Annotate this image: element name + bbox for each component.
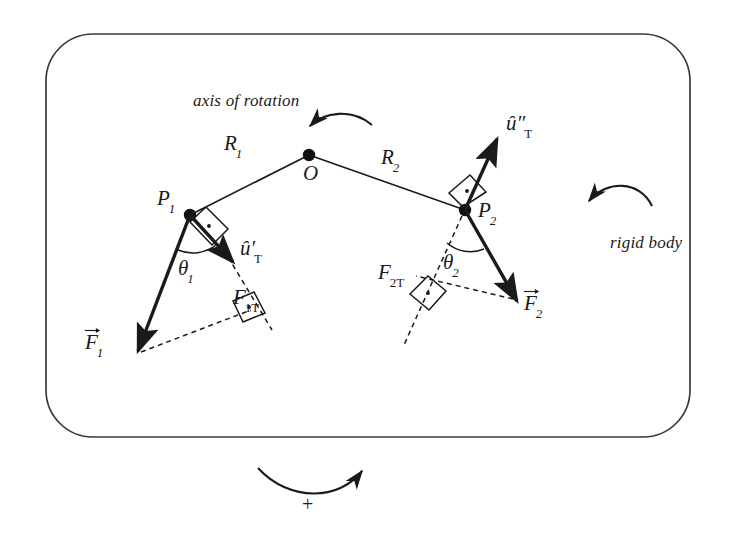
unit-tangent-1-letter: û bbox=[240, 236, 251, 260]
point-p1-label: P1 bbox=[157, 188, 176, 212]
vector-arrow-overbar-f1 bbox=[84, 326, 101, 335]
axis-of-rotation-arrow bbox=[310, 114, 372, 126]
unit-tangent-2-letter: û bbox=[506, 111, 517, 135]
f1t-letter: F bbox=[233, 285, 246, 309]
pivot-point-dot bbox=[303, 149, 315, 161]
pivot-label: O bbox=[303, 163, 318, 184]
point-p1-subscript: 1 bbox=[169, 201, 176, 216]
rigid-body-pointer-arrow bbox=[589, 186, 652, 206]
point-p1-letter: P bbox=[157, 186, 170, 210]
rigid-body-outline bbox=[46, 34, 690, 437]
projection-line-1 bbox=[141, 310, 251, 352]
radius-2-label: R2 bbox=[381, 147, 400, 171]
angle-1-subscript: 1 bbox=[187, 271, 194, 286]
radius-1-subscript: 1 bbox=[236, 146, 243, 161]
rigid-body-label: rigid body bbox=[610, 234, 682, 251]
f1t-subscript: 1T bbox=[245, 300, 259, 315]
angle-2-label: θ2 bbox=[443, 252, 460, 276]
force-2-label: F2 bbox=[524, 293, 543, 317]
angle-1-arc bbox=[178, 245, 216, 253]
force-1-letter-wrap: F bbox=[85, 332, 98, 353]
f2t-letter: F bbox=[378, 260, 391, 284]
angle-2-subscript: 2 bbox=[452, 265, 459, 280]
axis-of-rotation-label: axis of rotation bbox=[193, 92, 299, 109]
positive-sense-arrow bbox=[258, 468, 362, 494]
diagram-svg bbox=[0, 0, 738, 538]
angle-1-label: θ1 bbox=[178, 258, 195, 282]
point-p2-label: P2 bbox=[478, 200, 497, 224]
force-2-letter-wrap: F bbox=[524, 293, 537, 314]
radius-2-letter: R bbox=[381, 145, 394, 169]
vector-arrow-overbar-f2 bbox=[523, 287, 540, 296]
unit-tangent-2-label: û″T bbox=[506, 113, 533, 137]
tangential-component-1-label: F1T bbox=[233, 287, 260, 311]
tangential-component-2-label: F2T bbox=[378, 262, 405, 286]
force-1-subscript: 1 bbox=[97, 345, 104, 360]
positive-sense-label: + bbox=[302, 494, 313, 514]
unit-tangent-1-label: û′T bbox=[240, 238, 263, 262]
radius-1-label: R1 bbox=[224, 133, 243, 157]
force-1-vector bbox=[138, 215, 190, 351]
force-2-subscript: 2 bbox=[536, 306, 543, 321]
projection-line-2 bbox=[416, 276, 513, 299]
point-p2-subscript: 2 bbox=[490, 213, 497, 228]
f2t-subscript: 2T bbox=[390, 275, 404, 290]
radius-1-letter: R bbox=[224, 131, 237, 155]
point-p2-letter: P bbox=[478, 198, 491, 222]
radius-1-line bbox=[190, 155, 309, 215]
unit-tangent-1-vector bbox=[190, 215, 233, 262]
unit-tangent-1-subscript: T bbox=[254, 251, 262, 266]
figure-canvas: axis of rotation rigid body + O P1 P2 R1… bbox=[0, 0, 738, 538]
force-1-label: F1 bbox=[85, 332, 104, 356]
radius-2-subscript: 2 bbox=[393, 160, 400, 175]
unit-tangent-2-subscript: T bbox=[524, 126, 532, 141]
